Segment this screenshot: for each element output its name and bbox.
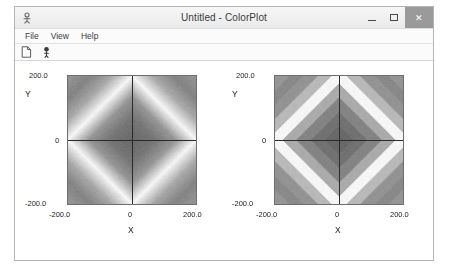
right-plot-panel: Y 200.0 0 -200.0 -200.0 0 200.0 X [224, 61, 433, 260]
left-plot-x-tick-zero: 0 [128, 210, 132, 219]
left-plot-x-tick-min: -200.0 [49, 210, 70, 219]
maximize-icon [390, 14, 398, 21]
left-plot-x-axis-title: X [128, 225, 134, 235]
close-button[interactable]: ✕ [405, 7, 433, 28]
right-plot-y-tick-max: 200.0 [236, 71, 255, 80]
left-plot-heatmap[interactable] [67, 75, 197, 205]
right-plot-x-axis-title: X [335, 225, 341, 235]
left-plot-y-axis-title: Y [25, 89, 31, 99]
left-plot-y-tick-max: 200.0 [29, 71, 48, 80]
right-plot-y-tick-zero: 0 [262, 136, 266, 145]
about-button[interactable] [40, 46, 53, 59]
right-plot-x-tick-min: -200.0 [256, 210, 277, 219]
left-plot-panel: Y 200.0 0 -200.0 -200.0 0 200.0 X [15, 61, 224, 260]
title-bar: Untitled - ColorPlot ✕ [15, 7, 433, 29]
menu-bar: File View Help [15, 29, 433, 44]
right-plot-heatmap[interactable] [274, 75, 404, 205]
toolbar [15, 44, 433, 61]
window-controls: ✕ [361, 7, 433, 28]
minimize-icon [368, 20, 376, 21]
right-plot-y-tick-min: -200.0 [232, 199, 253, 208]
maximize-button[interactable] [383, 7, 405, 28]
left-plot-canvas [68, 76, 196, 204]
plot-row: Y 200.0 0 -200.0 -200.0 0 200.0 X Y 200.… [15, 61, 433, 260]
right-plot-canvas [275, 76, 403, 204]
left-plot-y-tick-min: -200.0 [25, 199, 46, 208]
left-plot-y-tick-zero: 0 [55, 136, 59, 145]
plot-client-area: Y 200.0 0 -200.0 -200.0 0 200.0 X Y 200.… [15, 61, 433, 260]
right-plot-x-tick-zero: 0 [335, 210, 339, 219]
minimize-button[interactable] [361, 7, 383, 28]
right-plot-x-tick-max: 200.0 [390, 210, 409, 219]
menu-item-view[interactable]: View [45, 29, 75, 43]
right-plot-y-axis-title: Y [232, 89, 238, 99]
colorplot-app-icon [19, 10, 35, 26]
new-document-icon [21, 46, 32, 58]
menu-item-file[interactable]: File [19, 29, 45, 43]
application-window: Untitled - ColorPlot ✕ File View Help [14, 6, 434, 261]
menu-item-help[interactable]: Help [75, 29, 104, 43]
close-icon: ✕ [415, 13, 423, 23]
left-plot-x-tick-max: 200.0 [183, 210, 202, 219]
about-icon [41, 46, 52, 58]
new-document-button[interactable] [20, 46, 33, 59]
